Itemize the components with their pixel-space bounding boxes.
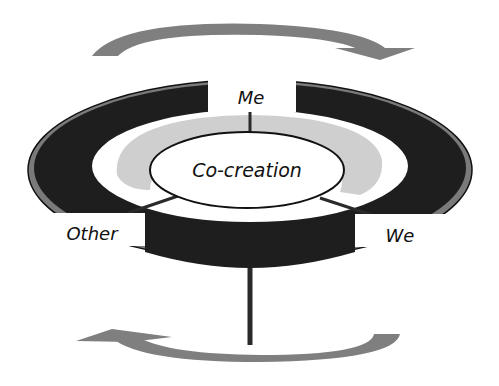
label-me: Me — [238, 87, 265, 108]
top-arrow-head — [335, 48, 415, 60]
bottom-arrow-head — [76, 329, 172, 342]
center-label: Co-creation — [192, 159, 302, 181]
label-other: Other — [66, 223, 119, 244]
co-creation-diagram: Co-creation Me Other We — [0, 0, 499, 386]
gap-right — [355, 214, 480, 247]
diagram-canvas: Co-creation Me Other We — [0, 0, 499, 386]
top-arrow-body — [92, 24, 385, 56]
label-we: We — [386, 225, 415, 246]
top-arrow — [92, 24, 415, 60]
bottom-arrow — [76, 329, 400, 362]
